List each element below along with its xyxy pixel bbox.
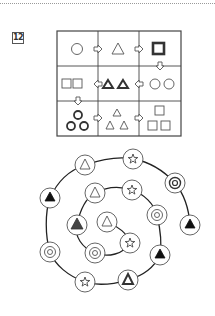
arrow-left-icon [94,80,102,88]
grid-triangle-icon [106,121,114,129]
spiral-node-star [75,272,95,292]
grid-triangle-icon [112,43,124,54]
spiral-node-triangle [85,183,105,203]
arrow-left-icon [135,80,143,88]
spiral-node-star [123,149,143,169]
grid-square-icon [155,106,164,115]
spiral-node-star [120,233,140,253]
spiral-node-triangle-filled [180,215,200,235]
grid-square-icon [62,79,71,88]
grid-square-icon [73,79,82,88]
spiral-node-star [122,180,142,200]
grid-circle-icon [72,44,83,55]
arrow-right-icon [94,114,102,122]
grid-triangle-icon [120,121,128,129]
spiral-node-target [85,243,105,263]
spiral-node-triangle [75,155,95,175]
puzzle-canvas [0,0,215,316]
grid-square-icon [148,121,157,130]
grid-circle-icon [164,79,174,89]
spiral-node-triangle-filled [150,245,170,265]
arrow-down-icon [156,62,164,70]
spiral-node-target [147,205,167,225]
spiral-node-triangle-filled-dark [67,215,87,235]
arrow-down-icon [74,97,82,105]
grid-square-icon [161,121,170,130]
grid-triangle-bold-icon [118,80,128,88]
arrow-right-icon [135,114,143,122]
grid-triangle-bold-icon [103,80,113,88]
spiral-node-target [40,242,60,262]
spiral-node-triangle-bold [118,270,138,290]
grid-circle-bold-icon [67,122,75,130]
arrow-right-icon [94,45,102,53]
spiral-node-triangle-filled [40,188,60,208]
spiral-node-triangle [97,212,117,232]
arrow-right-icon [135,45,143,53]
grid-triangle-icon [113,109,121,116]
spiral-node-target [165,173,185,193]
grid-circle-bold-icon [74,111,82,119]
grid-square-bold-icon [153,43,164,54]
sequence-grid [57,31,181,136]
grid-circle-bold-icon [80,122,88,130]
grid-circle-icon [150,79,160,89]
